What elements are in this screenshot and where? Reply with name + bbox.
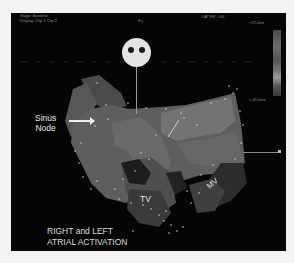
figure-caption: RIGHT and LEFT ATRIAL ACTIVATION: [47, 226, 127, 247]
caption-line1: RIGHT and LEFT: [47, 226, 127, 237]
right-eye-icon: [139, 47, 145, 53]
sinus-node-arrow-icon: [69, 120, 91, 122]
axis-marker-dot: [278, 150, 281, 153]
tricuspid-valve-label: TV: [140, 194, 151, 204]
caption-line2: ATRIAL ACTIVATION: [47, 237, 127, 248]
left-eye-icon: [128, 47, 134, 53]
head-orientation-icon: [122, 38, 151, 67]
axis-marker-line: [243, 152, 279, 153]
sinus-node-label: Sinus Node: [35, 113, 56, 133]
sinus-node-line1: Sinus: [35, 113, 56, 123]
orientation-icon-stem: [136, 67, 137, 114]
sinus-node-line2: Node: [35, 123, 56, 133]
electroanatomic-map-panel: Stage: Baseline Display: Clip 1 Clip 2 F…: [11, 13, 286, 251]
